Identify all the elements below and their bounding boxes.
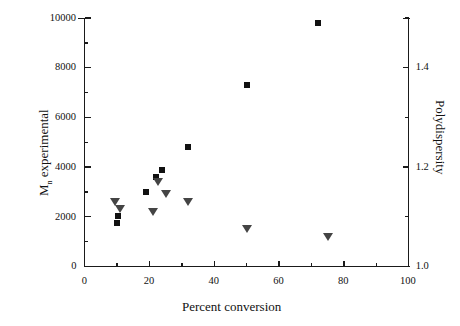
data-point-triangle <box>183 198 193 206</box>
y-axis-right-minor-tick <box>405 17 409 18</box>
y-axis-right-major-tick <box>403 266 409 267</box>
x-axis-minor-tick <box>181 263 182 267</box>
y-axis-left-minor-tick <box>85 142 89 143</box>
y-axis-left-major-tick <box>85 117 91 118</box>
y-axis-right-tick-label: 1.0 <box>416 261 429 272</box>
data-point-triangle <box>242 225 252 233</box>
x-axis-tick-label: 40 <box>209 276 220 287</box>
data-point-triangle <box>148 208 158 216</box>
x-axis-major-tick <box>343 261 344 267</box>
x-axis-minor-tick <box>311 263 312 267</box>
data-point-square <box>115 213 121 219</box>
data-point-triangle <box>115 205 125 213</box>
y-axis-right-minor-tick <box>405 117 409 118</box>
x-axis-major-tick <box>149 261 150 267</box>
x-axis-minor-tick <box>116 263 117 267</box>
data-point-triangle <box>161 190 171 198</box>
y-axis-left-major-tick <box>85 266 91 267</box>
y-axis-left-major-tick <box>85 216 91 217</box>
y-axis-left-minor-tick <box>85 191 89 192</box>
x-axis-tick-label: 80 <box>338 276 349 287</box>
y-axis-left-minor-tick <box>85 241 89 242</box>
y-axis-left-title: Mn experimental <box>36 109 54 196</box>
data-point-triangle <box>323 233 333 241</box>
y-axis-left-tick-label: 4000 <box>55 162 76 173</box>
y-axis-left-minor-tick <box>85 92 89 93</box>
y-axis-right-tick-label: 1.2 <box>416 162 429 173</box>
x-axis-title: Percent conversion <box>182 299 281 315</box>
y-axis-left-title-main: M <box>36 184 51 196</box>
data-point-square <box>185 144 191 150</box>
x-axis-minor-tick <box>376 263 377 267</box>
x-axis-major-tick <box>214 261 215 267</box>
y-axis-left-tick-label: 6000 <box>55 112 76 123</box>
y-axis-left-title-rest: experimental <box>36 109 51 180</box>
y-axis-left-title-sub: n <box>45 180 54 184</box>
data-point-triangle <box>153 178 163 186</box>
y-axis-left-tick-label: 8000 <box>55 62 76 73</box>
data-point-square <box>315 20 321 26</box>
data-point-square <box>244 82 250 88</box>
y-axis-right-major-tick <box>403 166 409 167</box>
y-axis-left-major-tick <box>85 17 91 18</box>
data-point-square <box>143 189 149 195</box>
data-point-square <box>159 167 165 173</box>
y-axis-right-title: Polydispersity <box>432 100 448 174</box>
x-axis-tick-label: 0 <box>82 276 87 287</box>
y-axis-left-tick-label: 10000 <box>50 13 76 24</box>
y-axis-right-minor-tick <box>405 216 409 217</box>
y-axis-right-tick-label: 1.4 <box>416 62 429 73</box>
y-axis-left-tick-label: 0 <box>71 261 76 272</box>
y-axis-right-line <box>408 18 409 267</box>
scatter-plot-figure: 02040608010002000400060008000100001.01.2… <box>0 0 460 326</box>
y-axis-left-minor-tick <box>85 42 89 43</box>
y-axis-right-major-tick <box>403 67 409 68</box>
x-axis-tick-label: 60 <box>273 276 284 287</box>
x-axis-tick-label: 20 <box>144 276 155 287</box>
x-axis-title-text: Percent conversion <box>182 299 281 314</box>
y-axis-left-major-tick <box>85 67 91 68</box>
y-axis-left-major-tick <box>85 166 91 167</box>
y-axis-right-title-text: Polydispersity <box>433 100 448 174</box>
data-point-square <box>114 220 120 226</box>
x-axis-minor-tick <box>246 263 247 267</box>
x-axis-tick-label: 100 <box>400 276 416 287</box>
y-axis-left-tick-label: 2000 <box>55 212 76 223</box>
x-axis-major-tick <box>278 261 279 267</box>
